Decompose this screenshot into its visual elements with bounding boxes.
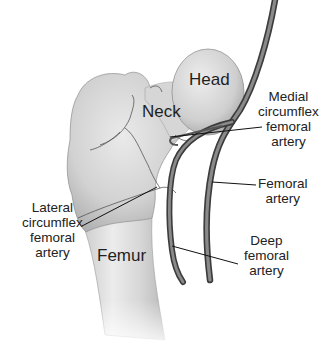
anatomy-illustration bbox=[0, 0, 336, 350]
label-femur: Femur bbox=[97, 247, 146, 265]
label-lateral-circumflex-femoral-artery: Lateral circumflex femoral artery bbox=[22, 200, 83, 260]
label-femoral-artery: Femoral artery bbox=[258, 176, 308, 206]
label-head: Head bbox=[189, 71, 230, 89]
label-medial-circumflex-femoral-artery: Medial circumflex femoral artery bbox=[258, 89, 319, 149]
deep-femoral-artery bbox=[169, 122, 232, 282]
label-deep-femoral-artery: Deep femoral artery bbox=[244, 233, 289, 278]
femur-artery-diagram: Head Neck Femur Medial circumflex femora… bbox=[0, 0, 336, 350]
label-neck: Neck bbox=[142, 103, 181, 121]
